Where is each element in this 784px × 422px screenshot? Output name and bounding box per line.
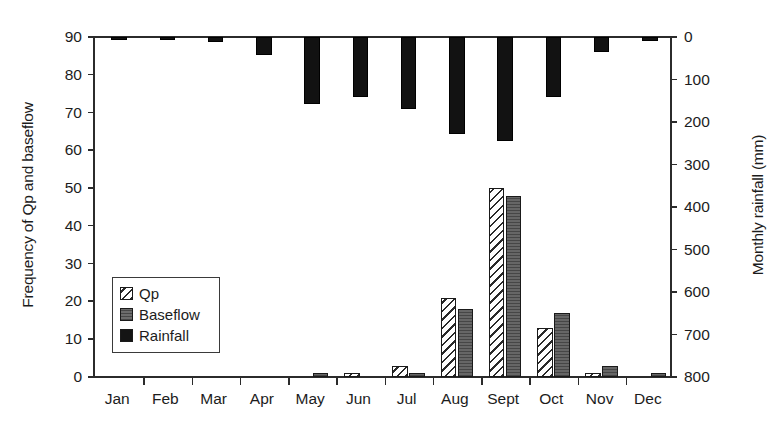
left-tick-label: 10: [48, 331, 82, 347]
rainfall-bar: [353, 37, 369, 97]
left-tick-label: 70: [48, 105, 82, 121]
left-axis-title: Frequency of Qp and baseflow: [19, 55, 37, 355]
right-tick-label: 800: [684, 369, 724, 385]
baseflow-bar: [506, 196, 522, 377]
right-tick-label: 700: [684, 327, 724, 343]
rainfall-bar: [401, 37, 417, 109]
qp-bar: [585, 373, 601, 377]
left-tick-label: 80: [48, 67, 82, 83]
qp-bar: [441, 298, 457, 377]
legend-item-qp: Qp: [120, 283, 212, 304]
left-tick-label: 30: [48, 256, 82, 272]
x-tick-mark: [336, 377, 338, 385]
right-axis-title: Monthly rainfall (mm): [749, 55, 767, 355]
x-tick-mark: [288, 377, 290, 385]
right-tick-label: 400: [684, 199, 724, 215]
chart-figure: Frequency of Qp and baseflow Monthly rai…: [0, 0, 784, 422]
baseflow-bar: [313, 373, 329, 377]
right-tick-mark: [670, 334, 677, 336]
rainfall-bar: [449, 37, 465, 134]
rainfall-bar: [642, 37, 658, 41]
baseflow-bar: [409, 373, 425, 377]
left-tick-label: 20: [48, 293, 82, 309]
baseflow-bar: [554, 313, 570, 377]
right-tick-mark: [670, 36, 677, 38]
left-tick-mark: [88, 338, 95, 340]
left-tick-label: 0: [48, 369, 82, 385]
x-tick-label: Jan: [93, 391, 141, 407]
left-tick-mark: [88, 74, 95, 76]
right-tick-mark: [670, 121, 677, 123]
legend-label-rainfall: Rainfall: [139, 328, 189, 343]
left-tick-mark: [88, 36, 95, 38]
left-tick-mark: [88, 112, 95, 114]
x-tick-label: Sept: [479, 391, 527, 407]
x-tick-label: Jun: [334, 391, 382, 407]
right-tick-mark: [670, 376, 677, 378]
right-tick-label: 200: [684, 114, 724, 130]
x-tick-label: May: [286, 391, 334, 407]
left-tick-mark: [88, 376, 95, 378]
qp-bar: [392, 366, 408, 377]
x-tick-mark: [578, 377, 580, 385]
left-tick-mark: [88, 225, 95, 227]
left-tick-mark: [88, 263, 95, 265]
x-tick-mark: [481, 377, 483, 385]
rainfall-bar: [304, 37, 320, 104]
x-tick-mark: [240, 377, 242, 385]
rainfall-black-swatch: [120, 329, 133, 342]
left-tick-mark: [88, 149, 95, 151]
rainfall-bar: [497, 37, 513, 141]
x-tick-label: Dec: [624, 391, 672, 407]
qp-bar: [489, 188, 505, 377]
left-tick-label: 40: [48, 218, 82, 234]
right-tick-mark: [670, 79, 677, 81]
right-tick-mark: [670, 249, 677, 251]
right-tick-mark: [670, 291, 677, 293]
right-tick-label: 0: [684, 29, 724, 45]
right-tick-label: 300: [684, 157, 724, 173]
legend-item-rainfall: Rainfall: [120, 325, 212, 346]
qp-bar: [344, 373, 360, 377]
x-tick-mark: [192, 377, 194, 385]
qp-hatch-swatch: [120, 287, 133, 300]
rainfall-bar: [111, 37, 127, 40]
chart-legend: Qp Baseflow Rainfall: [112, 277, 220, 353]
right-tick-label: 600: [684, 284, 724, 300]
right-tick-label: 500: [684, 242, 724, 258]
rainfall-bar: [256, 37, 272, 55]
x-tick-label: Aug: [431, 391, 479, 407]
baseflow-bar: [651, 373, 667, 377]
left-tick-mark: [88, 187, 95, 189]
qp-bar: [537, 328, 553, 377]
left-tick-label: 60: [48, 142, 82, 158]
x-tick-label: Apr: [238, 391, 286, 407]
rainfall-bar: [546, 37, 562, 97]
x-tick-label: Oct: [527, 391, 575, 407]
x-tick-mark: [143, 377, 145, 385]
x-tick-label: Mar: [190, 391, 238, 407]
x-tick-mark: [529, 377, 531, 385]
left-tick-mark: [88, 300, 95, 302]
x-tick-mark: [626, 377, 628, 385]
left-tick-label: 50: [48, 180, 82, 196]
x-tick-label: Jul: [383, 391, 431, 407]
x-tick-mark: [433, 377, 435, 385]
right-tick-label: 100: [684, 72, 724, 88]
right-tick-mark: [670, 206, 677, 208]
right-tick-mark: [670, 164, 677, 166]
x-tick-label: Nov: [576, 391, 624, 407]
legend-item-baseflow: Baseflow: [120, 304, 212, 325]
baseflow-bar: [458, 309, 474, 377]
rainfall-bar: [594, 37, 610, 52]
left-tick-label: 90: [48, 29, 82, 45]
baseflow-bar: [602, 366, 618, 377]
x-tick-mark: [385, 377, 387, 385]
rainfall-bar: [208, 37, 224, 42]
x-tick-label: Feb: [141, 391, 189, 407]
legend-label-qp: Qp: [139, 286, 159, 301]
baseflow-gray-swatch: [120, 308, 133, 321]
rainfall-bar: [160, 37, 176, 40]
legend-label-baseflow: Baseflow: [139, 307, 200, 322]
